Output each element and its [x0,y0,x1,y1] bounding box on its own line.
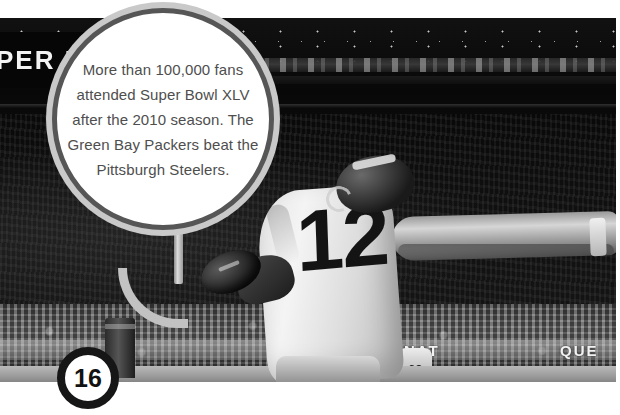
goalpost-pad-ring [105,324,135,329]
page-number-badge: 16 [57,347,119,409]
player-arm-shadow [398,244,614,258]
photo-page: PER F NAT QUE 68 12 More than 100,000 fa… [0,0,620,415]
page-number-value: 16 [74,366,102,391]
player-lower-body [276,356,380,382]
fact-callout-text: More than 100,000 fans attended Super Bo… [63,57,263,182]
player-wristband [589,218,606,257]
fact-callout-bubble: More than 100,000 fans attended Super Bo… [52,8,274,230]
ad-text-right: QUE [560,342,599,359]
